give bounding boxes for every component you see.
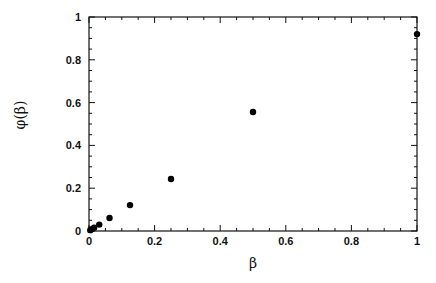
data-point xyxy=(414,31,420,37)
data-point xyxy=(96,221,102,227)
scatter-chart: 00.20.40.60.81 00.20.40.60.81 β φ(β) xyxy=(0,0,436,283)
y-tick-label: 0 xyxy=(75,225,81,237)
data-point xyxy=(250,109,256,115)
x-tick-label: 0.2 xyxy=(147,235,162,247)
data-point xyxy=(168,176,174,182)
axis-ticks xyxy=(89,17,417,231)
y-tick-label: 0.4 xyxy=(66,139,82,151)
y-tick-label: 1 xyxy=(75,11,81,23)
x-tick-label: 1 xyxy=(414,235,420,247)
x-tick-label: 0.8 xyxy=(344,235,359,247)
y-axis-label: φ(β) xyxy=(12,101,28,130)
y-tick-label: 0.2 xyxy=(66,182,81,194)
y-tick-labels: 00.20.40.60.81 xyxy=(66,11,82,237)
x-tick-label: 0.4 xyxy=(213,235,229,247)
x-tick-label: 0 xyxy=(86,235,92,247)
data-point xyxy=(106,215,112,221)
y-tick-label: 0.6 xyxy=(66,97,81,109)
plot-frame xyxy=(89,17,417,231)
data-point xyxy=(127,202,133,208)
data-points xyxy=(87,31,420,233)
x-tick-labels: 00.20.40.60.81 xyxy=(86,235,420,247)
x-axis-label: β xyxy=(249,255,257,271)
y-tick-label: 0.8 xyxy=(66,54,81,66)
x-tick-label: 0.6 xyxy=(278,235,293,247)
